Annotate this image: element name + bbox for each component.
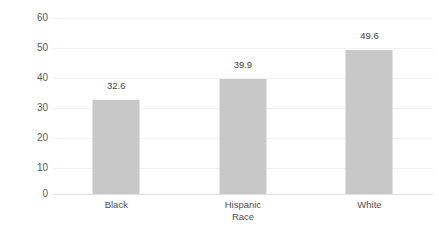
bar-black[interactable] xyxy=(93,100,140,194)
bar-value-white: 49.6 xyxy=(360,30,379,41)
y-tick-label-30: 30 xyxy=(22,103,48,113)
y-tick-label-10: 10 xyxy=(22,163,48,173)
x-axis-title: Race xyxy=(53,211,433,223)
y-tick-label-60: 60 xyxy=(22,13,48,23)
bar-value-hispanic: 39.9 xyxy=(234,59,253,70)
plot-area: 32.6 39.9 49.6 xyxy=(53,13,433,194)
bar-white[interactable] xyxy=(346,50,393,194)
y-tick-label-40: 40 xyxy=(22,73,48,83)
bar-group-hispanic: 39.9 xyxy=(180,13,307,194)
x-tick-label-black: Black xyxy=(53,199,180,211)
axis-baseline xyxy=(53,194,433,195)
y-axis-ticks: 60 50 40 30 20 10 0 xyxy=(18,0,48,238)
bar-value-black: 32.6 xyxy=(107,80,126,91)
y-tick-label-0: 0 xyxy=(22,189,48,199)
bar-group-black: 32.6 xyxy=(53,13,180,194)
bar-group-white: 49.6 xyxy=(306,13,433,194)
bar-hispanic[interactable] xyxy=(219,79,266,194)
y-tick-label-50: 50 xyxy=(22,43,48,53)
bar-chart: Probability of Mayoral Approval 60 50 40… xyxy=(0,0,439,238)
x-tick-label-white: White xyxy=(306,199,433,211)
y-tick-label-20: 20 xyxy=(22,133,48,143)
x-tick-label-hispanic: Hispanic xyxy=(180,199,307,211)
